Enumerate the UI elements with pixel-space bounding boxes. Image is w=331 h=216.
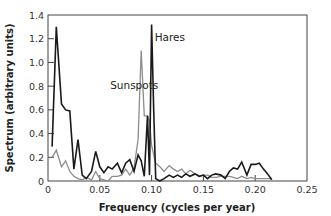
y-tick-label: 0 <box>38 176 44 187</box>
y-tick-label: 0.2 <box>29 152 44 163</box>
x-tick-label: 0.05 <box>89 184 110 195</box>
y-tick-label: 1.2 <box>29 33 44 44</box>
x-tick-label: 0.20 <box>245 184 266 195</box>
annotation-hares: Hares <box>155 31 185 43</box>
series-line-hares <box>52 25 272 182</box>
x-tick-label: 0.25 <box>296 184 317 195</box>
y-tick-label: 1.4 <box>29 10 44 21</box>
x-tick-label: 0.15 <box>193 184 214 195</box>
y-axis: 00.20.40.60.81.01.21.4 <box>29 10 54 187</box>
y-tick-label: 0.6 <box>29 104 44 115</box>
annotation-sunspots: Sunspots <box>110 79 158 91</box>
spectrum-chart: 00.20.40.60.81.01.21.4 00.050.100.150.20… <box>0 0 331 216</box>
y-tick-label: 0.8 <box>29 81 44 92</box>
y-tick-label: 1.0 <box>29 57 44 68</box>
series-line-sunspots <box>52 51 272 181</box>
annotations: HaresSunspots <box>110 31 185 90</box>
x-tick-label: 0.10 <box>141 184 162 195</box>
x-tick-label: 0 <box>45 184 51 195</box>
y-tick-label: 0.4 <box>29 128 44 139</box>
x-axis-title: Frequency (cycles per year) <box>99 202 256 213</box>
y-axis-title: Spectrum (arbitrary units) <box>4 24 15 173</box>
series-group <box>52 25 272 182</box>
